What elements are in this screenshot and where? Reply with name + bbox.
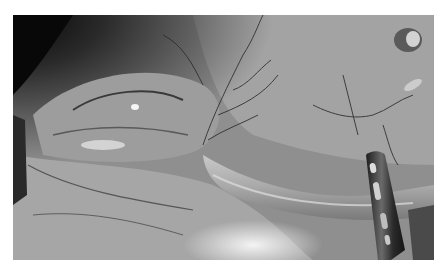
surgical-scene bbox=[13, 15, 434, 260]
surgical-photo bbox=[13, 15, 434, 260]
